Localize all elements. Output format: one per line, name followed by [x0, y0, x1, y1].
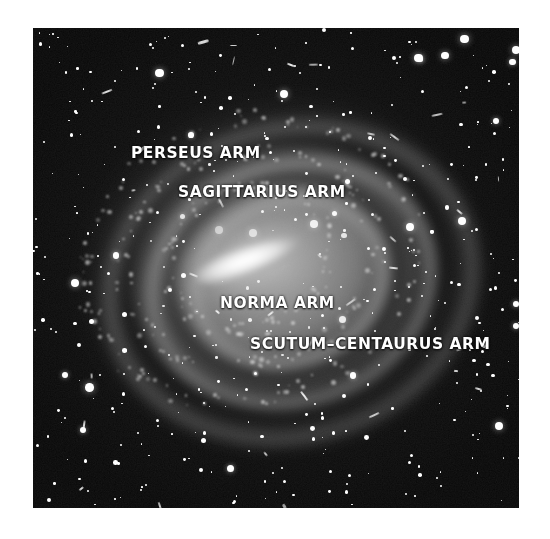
label-scutum-centaurus-arm: SCUTUM–CENTAURUS ARM	[250, 335, 490, 353]
label-sagittarius-arm: SAGITTARIUS ARM	[178, 183, 346, 201]
label-norma-arm: NORMA ARM	[220, 294, 335, 312]
label-perseus-arm: PERSEUS ARM	[131, 144, 261, 162]
galaxy-figure: PERSEUS ARM SAGITTARIUS ARM NORMA ARM SC…	[33, 28, 519, 508]
